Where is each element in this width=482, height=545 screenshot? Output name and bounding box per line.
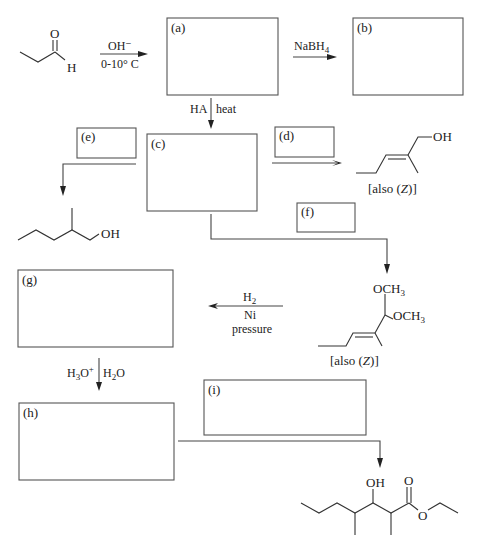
propanal-structure: O H <box>20 26 76 75</box>
reagent-water: H2O <box>103 366 125 382</box>
unsaturated-alcohol-structure: OH [also (Z)] <box>356 129 452 196</box>
reagent-nabh4: NaBH4 <box>294 39 330 55</box>
box-a-label: (a) <box>171 20 185 35</box>
ester-carbonyl-oxygen-label: O <box>404 473 413 488</box>
arrow-reduction: NaBH4 <box>293 39 337 60</box>
answer-box-g[interactable]: (g) <box>18 270 173 347</box>
aldehyde-hydrogen-label: H <box>67 60 76 75</box>
reagent-hydrogen: H2 <box>243 290 256 306</box>
box-i-label: (i) <box>208 382 220 397</box>
ester-hydroxyl-label: OH <box>366 475 385 490</box>
box-c-label: (c) <box>151 136 165 151</box>
ester-oxygen-label: O <box>418 508 427 523</box>
reagent-hydroxide: OH⁻ <box>108 39 132 53</box>
answer-box-e[interactable]: (e) <box>77 128 136 158</box>
answer-box-i[interactable]: (i) <box>204 380 366 435</box>
reagent-acid: HA <box>190 102 208 116</box>
box-g-label: (g) <box>22 272 37 287</box>
reagent-temperature: 0-10° C <box>101 57 139 71</box>
answer-box-h[interactable]: (h) <box>19 403 174 480</box>
ester-product-structure: OH O O <box>301 473 458 535</box>
arrow-hydrogenation: H2 Ni pressure <box>208 290 283 336</box>
saturated-alcohol-structure: OH <box>18 208 120 241</box>
stereo-note: [also (Z)] <box>330 353 379 368</box>
arrow-aldol-addition: OH⁻ 0-10° C <box>100 39 148 71</box>
methoxy-top-label: OCH3 <box>373 281 405 298</box>
box-d-label: (d) <box>279 128 294 143</box>
hydroxyl-label: OH <box>433 129 452 144</box>
reaction-scheme: O H OH⁻ 0-10° C (a) NaBH4 (b) HA heat (e… <box>0 0 482 545</box>
box-f-label: (f) <box>301 204 314 219</box>
reagent-hydronium: H3O+ <box>67 364 94 382</box>
answer-box-a[interactable]: (a) <box>167 18 278 95</box>
arrow-hydrolysis: H3O+ H2O <box>67 358 125 391</box>
acetal-structure: OCH3 OCH3 [also (Z)] <box>318 281 425 368</box>
answer-box-b[interactable]: (b) <box>353 18 463 95</box>
arrow-to-unsaturated-alcohol <box>272 160 342 166</box>
reagent-heat: heat <box>216 102 237 116</box>
hydroxyl-label: OH <box>101 226 120 241</box>
arrow-to-saturated-alcohol <box>60 164 136 196</box>
stereo-note: [also (Z)] <box>368 181 417 196</box>
reagent-nickel: Ni <box>244 308 257 322</box>
box-b-label: (b) <box>357 20 372 35</box>
carbonyl-oxygen-label: O <box>50 26 59 41</box>
answer-box-c[interactable]: (c) <box>147 134 257 211</box>
box-h-label: (h) <box>23 405 38 420</box>
box-e-label: (e) <box>81 129 95 144</box>
methoxy-bottom-label: OCH3 <box>393 308 425 325</box>
answer-box-f[interactable]: (f) <box>297 203 355 232</box>
arrow-dehydration: HA heat <box>190 98 237 129</box>
answer-box-d[interactable]: (d) <box>275 127 334 157</box>
arrow-to-ester <box>178 441 383 468</box>
reagent-pressure: pressure <box>232 322 272 336</box>
